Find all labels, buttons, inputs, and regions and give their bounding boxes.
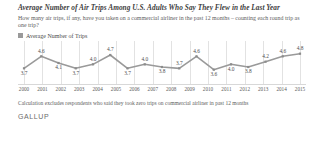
gallup-chart-card: Average Number of Air Trips Among U.S. A…	[0, 0, 318, 141]
data-point-label: 4.6	[279, 48, 286, 54]
data-point-label: 3.7	[176, 60, 183, 66]
series-line-average-number-of-trips	[18, 41, 306, 85]
data-point-label: 4.2	[262, 53, 269, 59]
data-point-label: 4.0	[90, 56, 97, 62]
legend-item-label: Average Number of Trips	[26, 33, 87, 39]
x-axis-tick: 2003	[74, 86, 84, 92]
data-point-label: 4.6	[193, 48, 200, 54]
data-point-label: 3.6	[210, 71, 217, 77]
data-point-marker	[195, 55, 197, 57]
x-axis-tick: 2013	[258, 86, 268, 92]
data-point-marker	[109, 54, 111, 56]
data-point-label: 4.0	[141, 56, 148, 62]
data-point-marker	[144, 63, 146, 65]
x-axis-tick-labels: 2000200120022003200420052006200720082009…	[18, 86, 306, 96]
data-point-label: 4.0	[228, 66, 235, 72]
gallup-logo: GALLUP	[18, 113, 306, 120]
data-point-label: 4.8	[297, 45, 304, 51]
x-axis-tick: 2015	[295, 86, 305, 92]
chart-subtitle: How many air trips, if any, have you tak…	[18, 15, 306, 29]
x-axis-tick: 2012	[240, 86, 250, 92]
data-point-label: 3.8	[245, 68, 252, 74]
x-axis-tick: 2014	[276, 86, 286, 92]
legend-swatch-icon	[18, 33, 23, 38]
data-point-label: 3.7	[124, 70, 131, 76]
chart-legend: Average Number of Trips	[18, 33, 306, 39]
x-axis-tick: 2002	[56, 86, 66, 92]
x-axis-tick: 2006	[129, 86, 139, 92]
x-axis-tick: 2001	[37, 86, 47, 92]
x-axis-tick: 2004	[92, 86, 102, 92]
x-axis-tick: 2005	[111, 86, 121, 92]
x-axis-tick: 2007	[148, 86, 158, 92]
data-point-marker	[40, 55, 42, 57]
data-point-label: 3.7	[72, 70, 79, 76]
data-point-marker	[299, 52, 301, 54]
data-point-marker	[178, 67, 180, 69]
data-point-marker	[264, 60, 266, 62]
x-axis-tick: 2000	[19, 86, 29, 92]
data-point-label: 4.6	[38, 48, 45, 54]
data-point-label: 3.7	[21, 70, 28, 76]
page-title: Average Number of Air Trips Among U.S. A…	[18, 3, 306, 12]
line-chart-plot-area: 3.74.64.13.74.04.73.74.03.83.74.63.64.03…	[18, 41, 306, 85]
x-axis-tick: 2011	[221, 86, 231, 92]
x-axis-tick: 2010	[203, 86, 213, 92]
data-point-label: 4.1	[55, 64, 62, 70]
chart-footnote: Calculation excludes respondents who sai…	[18, 100, 306, 106]
data-point-marker	[282, 55, 284, 57]
x-axis-tick: 2009	[184, 86, 194, 92]
data-point-label: 3.8	[159, 68, 166, 74]
x-axis-tick: 2008	[166, 86, 176, 92]
data-point-label: 4.7	[107, 46, 114, 52]
data-point-marker	[92, 63, 94, 65]
